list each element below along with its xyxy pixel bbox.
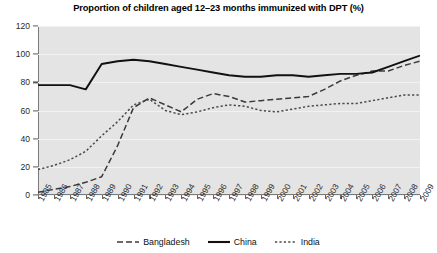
x-axis: 1985198619871988198919901991199219931994… bbox=[0, 198, 437, 232]
y-tick-label: 60 bbox=[20, 106, 30, 116]
legend-label: India bbox=[301, 237, 320, 247]
series-line-bangladesh bbox=[38, 61, 420, 192]
y-tick-label: 80 bbox=[20, 77, 30, 87]
legend-item-bangladesh[interactable]: Bangladesh bbox=[117, 237, 189, 247]
series-lines bbox=[38, 26, 420, 195]
legend-item-china[interactable]: China bbox=[208, 237, 257, 247]
chart-legend: BangladeshChinaIndia bbox=[0, 237, 437, 247]
legend-swatch-china-icon bbox=[208, 238, 230, 246]
series-line-china bbox=[38, 56, 420, 90]
legend-swatch-india-icon bbox=[275, 238, 297, 246]
legend-item-india[interactable]: India bbox=[275, 237, 320, 247]
chart-title: Proportion of children aged 12–23 months… bbox=[0, 3, 437, 13]
y-tick-label: 120 bbox=[16, 21, 30, 31]
y-tick-label: 100 bbox=[16, 49, 30, 59]
legend-label: Bangladesh bbox=[143, 237, 189, 247]
y-tick-label: 40 bbox=[20, 134, 30, 144]
legend-label: China bbox=[234, 237, 257, 247]
plot-area bbox=[38, 26, 420, 195]
legend-swatch-bangladesh-icon bbox=[117, 238, 139, 246]
y-axis: 020406080100120 bbox=[0, 26, 38, 195]
x-tick-label: 2009 bbox=[418, 182, 436, 203]
y-tick-label: 20 bbox=[20, 162, 30, 172]
series-line-india bbox=[38, 95, 420, 170]
immunization-line-chart: Proportion of children aged 12–23 months… bbox=[0, 0, 437, 253]
